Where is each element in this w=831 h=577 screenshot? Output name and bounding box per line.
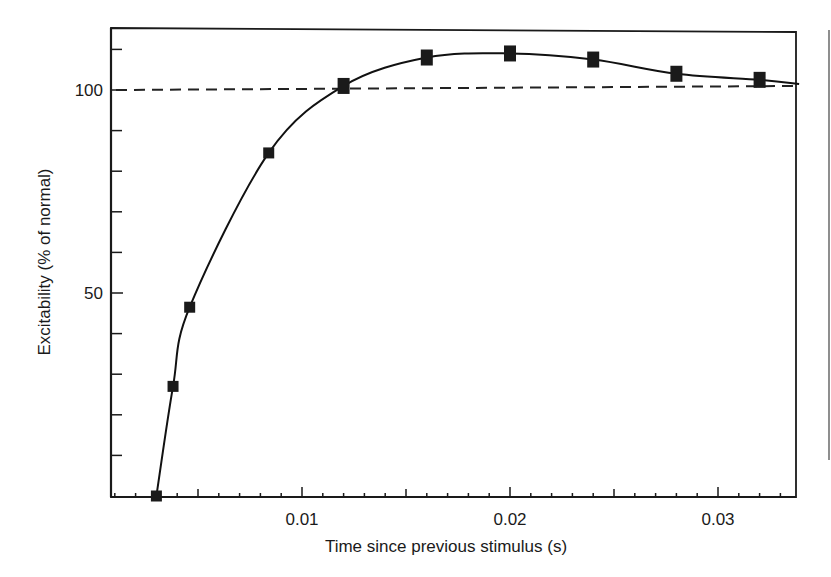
reference-line-100: [116, 86, 796, 90]
data-point-marker: [504, 45, 516, 61]
data-point-marker: [168, 381, 179, 392]
data-markers: [151, 45, 766, 501]
excitability-chart: 50100 0.010.020.03 Time since previous s…: [0, 0, 831, 577]
data-point-marker: [421, 50, 433, 66]
data-point-marker: [754, 72, 766, 88]
data-point-marker: [670, 66, 682, 82]
y-tick-label: 100: [75, 81, 103, 100]
plot-frame: [111, 28, 796, 497]
data-point-marker: [338, 78, 350, 94]
fitted-curve: [156, 53, 799, 496]
x-axis-ticks: 0.010.020.03: [115, 487, 781, 529]
x-tick-label: 0.03: [701, 510, 734, 529]
y-axis-title: Excitability (% of normal): [35, 168, 54, 355]
data-point-marker: [151, 491, 162, 502]
data-point-marker: [587, 52, 599, 68]
y-axis-ticks: 50100: [75, 49, 123, 455]
y-tick-label: 50: [84, 284, 103, 303]
x-axis-title: Time since previous stimulus (s): [325, 537, 567, 556]
fitted-curve-path: [156, 53, 799, 496]
x-tick-label: 0.02: [493, 510, 526, 529]
data-point-marker: [184, 302, 195, 313]
x-tick-label: 0.01: [285, 510, 318, 529]
dashed-normal-line: [116, 86, 796, 90]
plot-border: [111, 28, 796, 497]
data-point-marker: [263, 147, 274, 158]
